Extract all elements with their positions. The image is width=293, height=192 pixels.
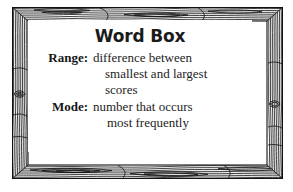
term-mode: Mode: bbox=[28, 99, 93, 115]
definition-range: difference between smallest and largest … bbox=[93, 50, 252, 98]
word-box-panel: Word Box Range: difference between small… bbox=[28, 20, 252, 152]
definition-mode: number that occurs most frequently bbox=[93, 99, 252, 131]
list-item: Mode: number that occurs most frequently bbox=[28, 99, 252, 131]
word-box-figure: Word Box Range: difference between small… bbox=[0, 0, 293, 192]
page-title: Word Box bbox=[28, 20, 252, 48]
list-item: Range: difference between smallest and l… bbox=[28, 50, 252, 98]
definition-line: most frequently bbox=[93, 115, 252, 131]
definition-line: difference between bbox=[93, 50, 252, 66]
definition-line: smallest and largest bbox=[93, 66, 252, 82]
term-range: Range: bbox=[28, 50, 93, 66]
definition-line: number that occurs bbox=[93, 99, 252, 115]
definition-list: Range: difference between smallest and l… bbox=[28, 48, 252, 131]
definition-line: scores bbox=[93, 82, 252, 98]
